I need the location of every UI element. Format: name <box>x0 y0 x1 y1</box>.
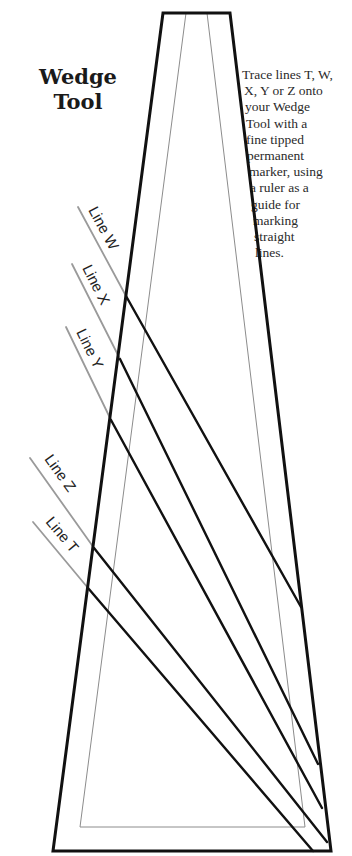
trace-line-w <box>126 296 301 607</box>
wedge-outline <box>53 13 331 851</box>
label-line-x: Line X <box>79 262 113 308</box>
label-line-z: Line Z <box>42 451 80 495</box>
wedge-diagram: Line W Line X Line Y Line Z Line T <box>0 0 352 856</box>
label-line-t: Line T <box>43 513 83 556</box>
trace-lines <box>88 296 327 851</box>
trace-line-y <box>111 420 322 808</box>
label-line-y: Line Y <box>73 326 107 371</box>
line-labels: Line W Line X Line Y Line Z Line T <box>42 203 123 555</box>
inner-outline <box>80 13 305 827</box>
label-line-w: Line W <box>85 203 123 253</box>
trace-line-t <box>88 588 313 851</box>
trace-line-x <box>120 359 318 764</box>
